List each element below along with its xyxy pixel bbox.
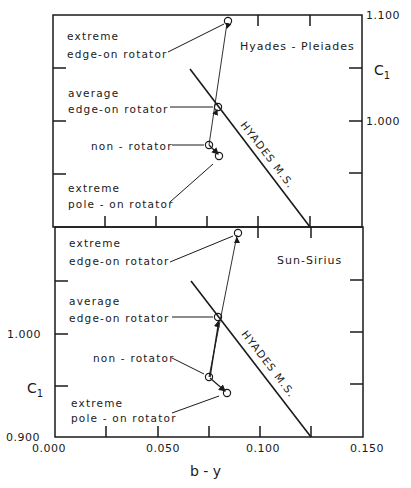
label-pole-on-rotator-bottom: pole - on rotator [71,412,177,424]
label-extreme-pole-bottom: extreme [71,397,123,409]
hyades-ms-label-bottom: HYADES M.S. [239,328,298,400]
label-average-bottom: average [69,295,120,307]
label-extreme-top: extreme [67,30,119,42]
label-edge-on-rotator-bottom: edge-on rotator [69,255,170,267]
y-tick-1100: 1.100 [366,9,400,22]
panel-title-hyades-pleiades: Hyades - Pleiades [240,40,355,53]
x-tick-0000: 0.000 [32,442,66,455]
point-pole-on-top [215,152,222,159]
x-tick-0050: 0.050 [146,442,180,455]
label-extreme-bottom: extreme [69,237,121,249]
label-non-rotator-bottom: non - rotator [93,352,175,364]
label-average-edge-on-bottom: edge-on rotator [69,312,170,324]
point-pole-on-bottom [223,389,230,396]
y-tick-1000-left: 1.000 [7,328,41,341]
label-edge-on-rotator-top: edge-on rotator [67,48,168,60]
bottom-panel: HYADES M.S. extreme edge-on rotator aver… [6,227,384,479]
x-axis-label: b - y [190,463,221,479]
hyades-ms-line-bottom [191,281,311,437]
x-tick-0100: 0.100 [246,442,280,455]
label-average-edge-on-top: edge-on rotator [68,103,169,115]
point-extreme-edge-on-top [224,17,231,24]
label-pole-on-rotator-top: pole - on rotator [68,198,174,210]
y-axis-label-right: C1 [374,62,390,81]
label-extreme-pole-top: extreme [68,182,120,194]
panel-title-sun-sirius: Sun-Sirius [277,254,342,267]
label-non-rotator-top: non - rotator [91,140,173,152]
x-tick-0150: 0.150 [350,442,384,455]
figure: HYADES M.S. extreme edge-on rotator aver… [0,0,411,488]
y-tick-1000-right: 1.000 [366,115,400,128]
y-axis-label-left: C1 [27,380,43,399]
label-average-top: average [68,87,119,99]
hyades-ms-label-top: HYADES M.S. [238,119,297,191]
point-extreme-edge-on-bottom [234,229,241,236]
top-panel: HYADES M.S. extreme edge-on rotator aver… [53,9,400,227]
